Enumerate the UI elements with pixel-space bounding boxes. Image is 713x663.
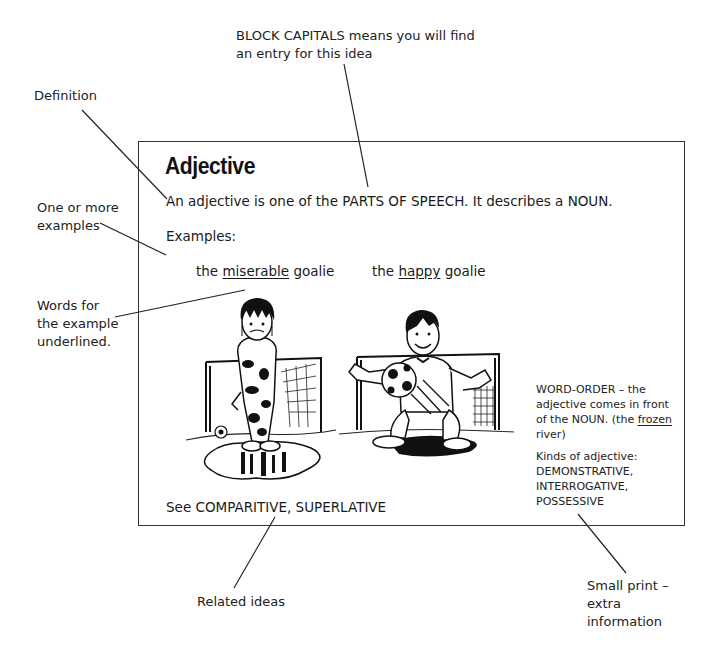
happy-goalie-illustration	[339, 302, 514, 472]
annotation-underlined-line3: underlined.	[37, 333, 118, 351]
entry-definition: An adjective is one of the PARTS OF SPEE…	[166, 193, 613, 209]
leader-related	[234, 517, 275, 588]
word-order-line: river)	[536, 427, 676, 442]
example-prefix: the	[372, 263, 398, 279]
word-order-line: of the NOUN. (the frozen	[536, 412, 676, 427]
word-order-line: WORD-ORDER – the	[536, 382, 676, 397]
kind-item: DEMONSTRATIVE,	[536, 464, 676, 479]
example-prefix: the	[196, 263, 222, 279]
annotation-examples: One or more examples	[37, 199, 119, 235]
annotation-underlined-line1: Words for	[37, 297, 118, 315]
annotation-underlined: Words for the example underlined.	[37, 297, 118, 351]
examples-label: Examples:	[166, 228, 236, 244]
annotation-small-print-line2: extra	[587, 595, 668, 613]
annotation-examples-line2: examples	[37, 217, 119, 235]
example-happy: the happy goalie	[372, 263, 486, 279]
example-miserable: the miserable goalie	[196, 263, 334, 279]
annotation-small-print-line1: Small print –	[587, 577, 668, 595]
miserable-goalie-illustration	[186, 292, 336, 492]
see-also-related-ideas: See COMPARITIVE, SUPERLATIVE	[166, 499, 386, 515]
kinds-label: Kinds of adjective:	[536, 449, 676, 464]
annotation-related-ideas: Related ideas	[197, 593, 285, 611]
word-order-underlined-word: frozen	[638, 413, 672, 426]
small-print-word-order: WORD-ORDER – the adjective comes in fron…	[536, 382, 676, 442]
example-underlined-word: miserable	[222, 263, 289, 279]
annotation-small-print: Small print – extra information	[587, 577, 668, 631]
small-print-kinds: Kinds of adjective: DEMONSTRATIVE, INTER…	[536, 449, 676, 509]
annotation-small-print-line3: information	[587, 613, 668, 631]
annotation-underlined-line2: the example	[37, 315, 118, 333]
entry-title: Adjective	[165, 152, 255, 180]
annotation-examples-line1: One or more	[37, 199, 119, 217]
kind-item: POSSESSIVE	[536, 494, 676, 509]
example-underlined-word: happy	[398, 263, 440, 279]
example-suffix: goalie	[289, 263, 334, 279]
dictionary-entry: Adjective An adjective is one of the PAR…	[138, 141, 685, 526]
annotation-block-capitals-line1: BLOCK CAPITALS means you will find	[236, 27, 475, 45]
kind-item: INTERROGATIVE,	[536, 479, 676, 494]
example-suffix: goalie	[440, 263, 485, 279]
word-order-line: adjective comes in front	[536, 397, 676, 412]
annotation-definition: Definition	[34, 87, 97, 105]
annotation-block-capitals: BLOCK CAPITALS means you will find an en…	[236, 27, 475, 63]
word-order-text: of the NOUN. (the	[536, 413, 638, 426]
annotation-block-capitals-line2: an entry for this idea	[236, 45, 475, 63]
